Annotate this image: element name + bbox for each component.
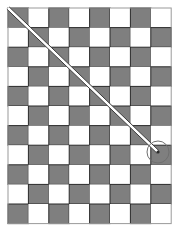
checkerboard-cell-light: [8, 145, 28, 165]
checkerboard-cell-dark: [130, 165, 150, 185]
checkerboard-cell-dark: [49, 126, 69, 146]
checkerboard-cell-dark: [69, 145, 89, 165]
checkerboard-cell-light: [110, 204, 130, 224]
checkerboard-cell-dark: [110, 28, 130, 48]
checkerboard-cell-dark: [151, 28, 171, 48]
checkerboard-cell-dark: [49, 8, 69, 28]
checkerboard-cell-dark: [110, 184, 130, 204]
checkerboard-cell-light: [151, 8, 171, 28]
checkerboard-cell-light: [130, 28, 150, 48]
checkerboard-cell-light: [28, 165, 48, 185]
checkerboard-cell-light: [90, 145, 110, 165]
checkerboard-cell-light: [110, 47, 130, 67]
checkerboard-cell-light: [110, 8, 130, 28]
checkerboard-cell-dark: [151, 106, 171, 126]
checkerboard-cell-dark: [90, 8, 110, 28]
checkerboard-cell-light: [90, 67, 110, 87]
checkerboard-cell-dark: [28, 67, 48, 87]
checkerboard-cell-dark: [130, 204, 150, 224]
checkerboard-cell-light: [49, 67, 69, 87]
checkerboard-grid: [8, 8, 171, 224]
checkerboard-cell-dark: [130, 47, 150, 67]
endpoint-dot-marker: [156, 150, 159, 153]
checkerboard-cell-light: [110, 165, 130, 185]
checkerboard-figure: [0, 0, 180, 226]
checkerboard-cell-light: [8, 67, 28, 87]
checkerboard-cell-light: [28, 126, 48, 146]
checkerboard-cell-light: [69, 47, 89, 67]
checkerboard-cell-dark: [90, 204, 110, 224]
checkerboard-cell-light: [8, 28, 28, 48]
checkerboard-cell-light: [69, 8, 89, 28]
checkerboard-cell-light: [28, 204, 48, 224]
checkerboard-cell-dark: [28, 106, 48, 126]
checkerboard-cell-light: [130, 184, 150, 204]
checkerboard-cell-light: [90, 184, 110, 204]
checkerboard-cell-light: [49, 184, 69, 204]
checkerboard-cell-light: [69, 126, 89, 146]
checkerboard-cell-dark: [49, 86, 69, 106]
checkerboard-cell-light: [110, 126, 130, 146]
checkerboard-cell-light: [49, 28, 69, 48]
checkerboard-cell-dark: [130, 8, 150, 28]
checkerboard-cell-light: [151, 86, 171, 106]
checkerboard-cell-light: [8, 184, 28, 204]
checkerboard-cell-dark: [110, 67, 130, 87]
checkerboard-cell-light: [28, 86, 48, 106]
checkerboard-cell-light: [110, 86, 130, 106]
checkerboard-cell-dark: [90, 47, 110, 67]
checkerboard-cell-light: [151, 165, 171, 185]
checkerboard-cell-dark: [28, 184, 48, 204]
checkerboard-cell-dark: [49, 165, 69, 185]
checkerboard-cell-dark: [8, 126, 28, 146]
checkerboard-cell-dark: [8, 204, 28, 224]
checkerboard-cell-light: [90, 106, 110, 126]
figure-root: [0, 0, 180, 226]
checkerboard-cell-light: [28, 47, 48, 67]
checkerboard-cell-light: [49, 106, 69, 126]
checkerboard-cell-dark: [69, 28, 89, 48]
checkerboard-cell-dark: [69, 106, 89, 126]
checkerboard-cell-light: [151, 47, 171, 67]
checkerboard-cell-dark: [90, 126, 110, 146]
checkerboard-cell-light: [69, 204, 89, 224]
checkerboard-cell-dark: [8, 86, 28, 106]
checkerboard-cell-dark: [110, 145, 130, 165]
checkerboard-cell-dark: [90, 165, 110, 185]
checkerboard-cell-light: [28, 8, 48, 28]
checkerboard-cell-light: [69, 165, 89, 185]
checkerboard-cell-light: [69, 86, 89, 106]
checkerboard-cell-light: [151, 204, 171, 224]
checkerboard-cell-dark: [151, 184, 171, 204]
checkerboard-cell-dark: [130, 86, 150, 106]
checkerboard-cell-light: [90, 28, 110, 48]
checkerboard-cell-dark: [151, 67, 171, 87]
checkerboard-cell-light: [8, 106, 28, 126]
checkerboard-cell-dark: [49, 204, 69, 224]
checkerboard-cell-dark: [28, 145, 48, 165]
checkerboard-cell-dark: [69, 184, 89, 204]
checkerboard-cell-light: [130, 106, 150, 126]
checkerboard-cell-dark: [8, 165, 28, 185]
checkerboard-cell-light: [130, 67, 150, 87]
checkerboard-cell-dark: [8, 47, 28, 67]
checkerboard-cell-light: [49, 145, 69, 165]
